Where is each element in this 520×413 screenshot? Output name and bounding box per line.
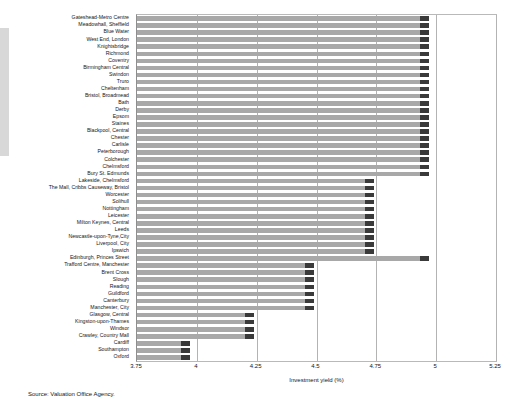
bar xyxy=(137,235,374,240)
bar-end-marker xyxy=(181,348,190,353)
category-label: Truro xyxy=(117,78,129,84)
bar-end-marker xyxy=(420,80,429,85)
bar-end-marker xyxy=(365,193,374,198)
category-label: Reading xyxy=(110,283,129,289)
bar xyxy=(137,23,429,28)
category-label: Blackpool, Central xyxy=(87,127,129,133)
bar-row xyxy=(137,122,496,127)
bar-end-marker xyxy=(420,172,429,177)
bar-end-marker xyxy=(365,221,374,226)
bar-row xyxy=(137,334,496,339)
bar-end-marker xyxy=(420,129,429,134)
bar-end-marker xyxy=(420,87,429,92)
bar xyxy=(137,242,374,247)
category-label: Southampton xyxy=(98,346,129,352)
category-axis-labels: Gateshead-Metro CentreMeadowhall, Sheffi… xyxy=(0,14,133,362)
bar-series xyxy=(137,15,496,361)
category-label: Bristol, Broadmead xyxy=(85,92,129,98)
bar-row xyxy=(137,292,496,297)
category-label: Solihull xyxy=(112,198,129,204)
bar-end-marker xyxy=(420,52,429,57)
bar xyxy=(137,228,374,233)
bar xyxy=(137,334,254,339)
bar xyxy=(137,327,254,332)
bar-end-marker xyxy=(420,143,429,148)
category-label: Knightsbridge xyxy=(97,43,129,49)
bar-end-marker xyxy=(420,66,429,71)
bar-row xyxy=(137,87,496,92)
bar-end-marker xyxy=(245,327,254,332)
bar-row xyxy=(137,143,496,148)
category-label: Lakeside, Chelmsford xyxy=(79,177,129,183)
bar-end-marker xyxy=(420,73,429,78)
bar-row xyxy=(137,249,496,254)
bar-row xyxy=(137,23,496,28)
x-tick-label: 4.25 xyxy=(250,363,262,369)
category-label: Leicester xyxy=(108,212,129,218)
bar xyxy=(137,200,374,205)
bar xyxy=(137,59,429,64)
bar xyxy=(137,313,254,318)
bar-end-marker xyxy=(420,59,429,64)
category-label: Newcastle-upon-Tyne,City xyxy=(68,233,129,239)
bar-end-marker xyxy=(305,299,314,304)
bar-end-marker xyxy=(420,108,429,113)
bar xyxy=(137,115,429,120)
plot-area xyxy=(136,14,497,362)
bar xyxy=(137,306,314,311)
bar xyxy=(137,256,429,261)
bar-row xyxy=(137,355,496,360)
bar-row xyxy=(137,221,496,226)
bar xyxy=(137,172,429,177)
bar-end-marker xyxy=(305,270,314,275)
bar xyxy=(137,179,374,184)
bar-row xyxy=(137,214,496,219)
category-label: Liverpool, City xyxy=(96,240,129,246)
bar-row xyxy=(137,30,496,35)
gridline xyxy=(496,15,497,361)
bar-row xyxy=(137,277,496,282)
bar-row xyxy=(137,193,496,198)
bar-row xyxy=(137,37,496,42)
category-label: Leeds xyxy=(115,226,129,232)
bar-row xyxy=(137,263,496,268)
bar xyxy=(137,136,429,141)
bar xyxy=(137,320,254,325)
bar xyxy=(137,52,429,57)
category-label: Canterbury xyxy=(103,297,129,303)
category-label: Slough xyxy=(113,276,129,282)
value-axis-ticks: 3.7544.254.54.7555.25 xyxy=(136,363,497,375)
category-label: Cardiff xyxy=(114,339,129,345)
category-label: Coventry xyxy=(108,57,129,63)
bar-end-marker xyxy=(305,277,314,282)
bar-row xyxy=(137,285,496,290)
bar xyxy=(137,221,374,226)
bar-end-marker xyxy=(420,30,429,35)
bar-row xyxy=(137,228,496,233)
bar-row xyxy=(137,172,496,177)
category-label: Trafford Centre, Manchester xyxy=(64,261,129,267)
bar xyxy=(137,30,429,35)
bar-end-marker xyxy=(420,136,429,141)
x-tick-label: 3.75 xyxy=(130,363,142,369)
bar-row xyxy=(137,200,496,205)
bar-row xyxy=(137,150,496,155)
category-label: Worcester xyxy=(105,191,129,197)
bar-end-marker xyxy=(365,207,374,212)
bar-row xyxy=(137,136,496,141)
bar xyxy=(137,277,314,282)
category-label: Birmingham Central xyxy=(83,64,129,70)
bar-row xyxy=(137,306,496,311)
bar-end-marker xyxy=(420,37,429,42)
category-label: Chester xyxy=(111,134,129,140)
category-label: Staines xyxy=(112,120,129,126)
bar-end-marker xyxy=(420,94,429,99)
bar xyxy=(137,214,374,219)
category-label: Brent Cross xyxy=(102,269,129,275)
bar-row xyxy=(137,207,496,212)
x-tick-label: 4.75 xyxy=(369,363,381,369)
category-label: Colchester xyxy=(104,156,129,162)
bar xyxy=(137,16,429,21)
bar-end-marker xyxy=(305,292,314,297)
bar xyxy=(137,207,374,212)
